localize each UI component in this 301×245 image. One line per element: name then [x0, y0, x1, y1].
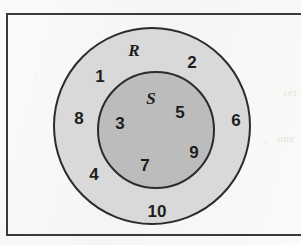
element-number: 9 — [189, 144, 198, 161]
set-label-S: S — [146, 90, 155, 107]
element-number: 2 — [187, 54, 196, 71]
figure-page: set one R S 1 2 8 6 4 10 3 5 9 7 — [0, 0, 301, 245]
element-number: 6 — [231, 112, 240, 129]
set-diagram: R S 1 2 8 6 4 10 3 5 9 7 — [8, 15, 301, 234]
element-number: 1 — [95, 68, 104, 85]
element-number: 5 — [175, 104, 184, 121]
element-number: 10 — [148, 203, 167, 220]
element-number: 3 — [115, 115, 124, 132]
universe-rectangle: R S 1 2 8 6 4 10 3 5 9 7 — [6, 13, 301, 236]
set-label-R: R — [128, 42, 139, 59]
element-number: 7 — [140, 157, 149, 174]
element-number: 4 — [89, 166, 98, 183]
element-number: 8 — [74, 110, 83, 127]
